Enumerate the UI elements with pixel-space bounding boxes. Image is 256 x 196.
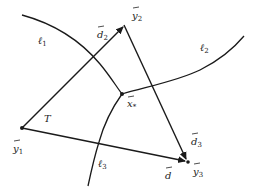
vector-d3	[124, 25, 186, 159]
svg-text:y2: y2	[131, 10, 142, 23]
curve-l1	[22, 15, 122, 94]
curve-l3	[88, 94, 122, 186]
point-x-star	[120, 92, 124, 96]
label-d2: d2	[97, 26, 108, 42]
svg-text:y1: y1	[12, 143, 23, 156]
label-triangle-t: T	[44, 113, 52, 124]
label-d3: d3	[191, 133, 202, 149]
svg-text:d: d	[165, 170, 171, 181]
vector-d	[22, 128, 185, 161]
svg-text:d3: d3	[191, 136, 202, 149]
curve-l2	[122, 36, 244, 94]
svg-text:x*: x*	[127, 98, 137, 111]
label-x-star: x*	[127, 96, 137, 111]
svg-text:y3: y3	[192, 166, 203, 179]
label-l1: ℓ1	[38, 35, 47, 48]
label-y1: y1	[12, 140, 23, 156]
svg-text:d2: d2	[97, 29, 108, 42]
label-y2: y2	[131, 7, 142, 23]
label-y3: y3	[192, 163, 203, 179]
diagram-canvas: ℓ1 ℓ2 ℓ3 d2 d3 d y2 y1 y3 x* T	[0, 0, 256, 196]
label-d: d	[165, 167, 172, 181]
label-l2: ℓ2	[200, 42, 209, 55]
point-y3	[186, 160, 190, 164]
point-y1	[20, 126, 24, 130]
label-l3: ℓ3	[98, 158, 107, 171]
